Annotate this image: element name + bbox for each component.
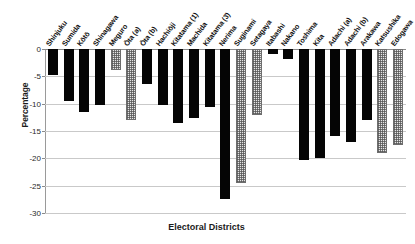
bar[interactable]	[64, 49, 74, 101]
bar[interactable]	[346, 49, 356, 142]
bar[interactable]	[315, 49, 325, 158]
bar[interactable]	[283, 49, 293, 59]
bar-slot	[296, 49, 312, 213]
bar-slot	[108, 49, 124, 213]
bar-slot	[343, 49, 359, 213]
bar[interactable]	[377, 49, 387, 153]
bar[interactable]	[268, 49, 278, 54]
bar-slot	[139, 49, 155, 213]
bar[interactable]	[299, 49, 309, 160]
gridline-neg30	[45, 213, 406, 214]
bar[interactable]	[252, 49, 262, 115]
bar[interactable]	[393, 49, 403, 145]
bar-slot	[233, 49, 249, 213]
bar-slot	[312, 49, 328, 213]
y-tick-label: -15	[29, 127, 41, 136]
y-tick-label: -25	[29, 181, 41, 190]
bar-slot	[390, 49, 406, 213]
bar-slot	[171, 49, 187, 213]
x-axis-category-labels: ShinjukuSumidaKōtōShinagawaMeguroŌta (a)…	[45, 0, 406, 49]
bar[interactable]	[236, 49, 246, 183]
bar[interactable]	[362, 49, 372, 120]
bar-slot	[202, 49, 218, 213]
bar-slot	[280, 49, 296, 213]
bar[interactable]	[330, 49, 340, 136]
bar[interactable]	[48, 49, 58, 75]
bar-slot	[92, 49, 108, 213]
bar-slot	[375, 49, 391, 213]
bar-slot	[265, 49, 281, 213]
bar[interactable]	[142, 49, 152, 84]
bar[interactable]	[173, 49, 183, 123]
bar-slot	[61, 49, 77, 213]
bar-slot	[359, 49, 375, 213]
bar-slot	[155, 49, 171, 213]
y-tick-label: -30	[29, 209, 41, 218]
y-tick-label: -10	[29, 99, 41, 108]
y-tick-label: -5	[34, 72, 41, 81]
bar[interactable]	[205, 49, 215, 107]
bar-slot	[123, 49, 139, 213]
y-tick-label: 0	[37, 45, 41, 54]
plot-area: 0-5-10-15-20-25-30	[45, 49, 406, 213]
bar-slot	[218, 49, 234, 213]
y-tick-mark	[42, 213, 45, 214]
bar-slot	[76, 49, 92, 213]
bar[interactable]	[126, 49, 136, 120]
bar[interactable]	[189, 49, 199, 118]
bar-slot	[45, 49, 61, 213]
bar[interactable]	[220, 49, 230, 199]
bar[interactable]	[79, 49, 89, 112]
bar[interactable]	[95, 49, 105, 105]
x-axis-title: Electoral Districts	[0, 222, 413, 232]
bar-slot	[249, 49, 265, 213]
bar-slot	[186, 49, 202, 213]
y-tick-label: -20	[29, 154, 41, 163]
x-axis-label: Kita	[310, 32, 325, 48]
bar[interactable]	[158, 49, 168, 105]
bar[interactable]	[111, 49, 121, 70]
bar-series	[45, 49, 406, 213]
bar-slot	[328, 49, 344, 213]
